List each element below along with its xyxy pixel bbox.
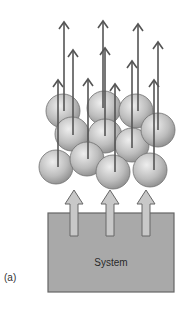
energy-transfer-arrows (65, 190, 155, 236)
particle-sphere (39, 150, 73, 184)
panel-label: (a) (4, 272, 16, 283)
system-label: System (48, 257, 174, 268)
particle-sphere (133, 153, 167, 187)
particle-sphere (96, 155, 130, 189)
